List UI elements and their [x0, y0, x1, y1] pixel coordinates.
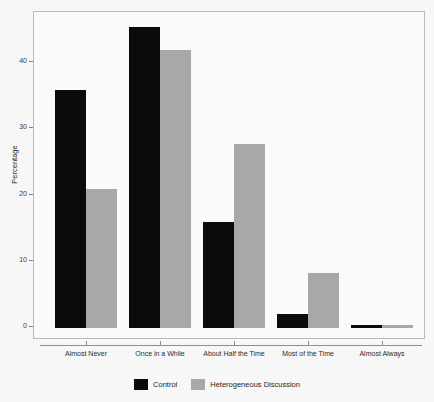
legend-swatch-icon [134, 379, 148, 390]
x-tick-mark [234, 341, 235, 345]
bar-chart-figure: Percentage 010203040 Almost NeverOnce in… [0, 0, 434, 402]
y-tick-label: 0 [23, 321, 27, 331]
y-tick-mark [29, 260, 33, 261]
y-tick-label: 40 [19, 56, 27, 66]
bar-control [129, 27, 160, 328]
x-tick-label: Almost Never [65, 349, 107, 359]
bar-heterogeneous-discussion [160, 50, 191, 328]
y-tick-label: 30 [19, 122, 27, 132]
bar-control [55, 90, 86, 329]
x-tick-mark [160, 341, 161, 345]
legend-label: Control [153, 380, 177, 389]
y-tick-label: 10 [19, 255, 27, 265]
x-tick-label: Most of the Time [282, 349, 334, 359]
x-tick-label: Almost Always [359, 349, 404, 359]
legend-label: Heterogeneous Discussion [210, 380, 300, 389]
bar-heterogeneous-discussion [86, 189, 117, 328]
x-tick-label: About Half the Time [203, 349, 264, 359]
x-tick-mark [382, 341, 383, 345]
x-tick-label: Once in a While [135, 349, 184, 359]
x-axis-line [40, 345, 422, 346]
y-tick-label: 20 [19, 189, 27, 199]
legend-entry: Heterogeneous Discussion [191, 379, 300, 390]
x-tick-mark [308, 341, 309, 345]
legend-entry: Control [134, 379, 177, 390]
plot-area [34, 12, 424, 328]
y-tick-mark [29, 61, 33, 62]
bar-control [351, 325, 382, 328]
y-tick-mark [29, 326, 33, 327]
chart-legend: ControlHeterogeneous Discussion [0, 379, 434, 390]
bar-control [277, 314, 308, 328]
bar-heterogeneous-discussion [308, 273, 339, 328]
bar-heterogeneous-discussion [234, 144, 265, 328]
y-tick-mark [29, 127, 33, 128]
x-tick-mark [86, 341, 87, 345]
y-axis: 010203040 [0, 0, 33, 402]
bar-heterogeneous-discussion [382, 325, 413, 328]
y-tick-mark [29, 194, 33, 195]
bar-control [203, 222, 234, 328]
legend-swatch-icon [191, 379, 205, 390]
